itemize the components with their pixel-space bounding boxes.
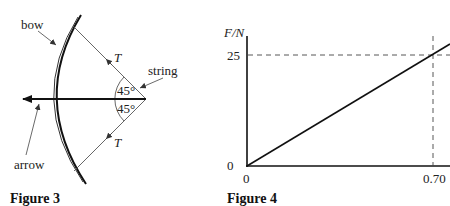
- string-label: string: [148, 63, 178, 78]
- tension-arrow-lower-icon: [106, 133, 112, 139]
- angle-label-lower: 45°: [117, 101, 135, 116]
- figure-4-caption: Figure 4: [227, 191, 277, 206]
- figure-3: bow string arrow T T 45° 45° Figure 3: [10, 15, 178, 206]
- bow-label: bow: [21, 17, 44, 32]
- arrow-label: arrow: [14, 157, 45, 172]
- y-axis-label: F/N: [223, 25, 246, 40]
- y-tick-0: 0: [227, 158, 234, 173]
- x-tick-070: 0.70: [423, 171, 446, 186]
- figure-4: F/N 25 0 0 0.70 Figure 4: [223, 25, 450, 206]
- y-tick-25: 25: [227, 48, 240, 63]
- angle-label-upper: 45°: [117, 83, 135, 98]
- tension-label-lower: T: [114, 135, 122, 150]
- bow-pointer: [38, 31, 56, 45]
- force-extension-line: [247, 44, 450, 166]
- x-tick-0: 0: [243, 171, 250, 186]
- arrow-pointer: [26, 104, 39, 155]
- tension-arrow-upper-icon: [106, 59, 112, 65]
- string-pointer: [140, 78, 163, 88]
- tension-label-upper: T: [114, 50, 122, 65]
- figure-3-caption: Figure 3: [10, 191, 60, 206]
